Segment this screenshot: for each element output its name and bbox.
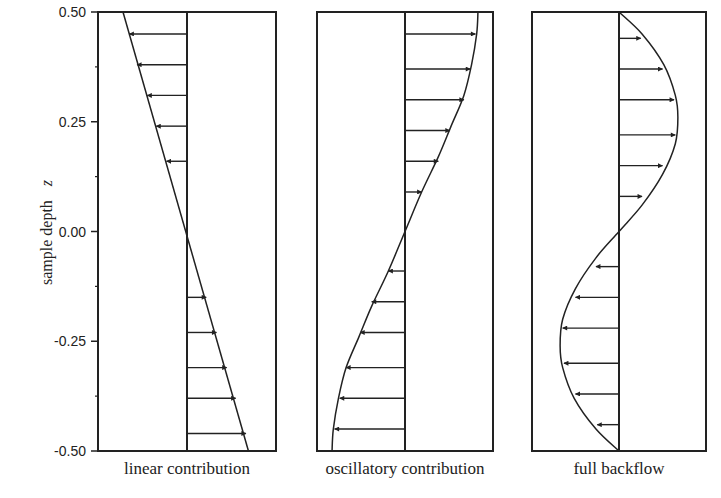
profile-curve	[123, 12, 248, 451]
panel-label-linear: linear contribution	[124, 459, 251, 478]
y-axis: 0.500.250.00-0.25-0.50	[54, 4, 98, 459]
y-tick-label: -0.50	[54, 443, 86, 459]
y-axis-label-var: z	[38, 179, 55, 187]
panel-linear-contribution	[98, 12, 276, 451]
figure: 0.500.250.00-0.25-0.50 sample depth z li…	[0, 0, 721, 498]
y-tick-label: 0.25	[59, 114, 86, 130]
y-axis-label-text: sample depth	[38, 200, 56, 285]
panel-oscillatory-contribution	[317, 12, 493, 451]
y-axis-label: sample depth z	[38, 179, 56, 285]
panel-label-oscillatory: oscillatory contribution	[325, 459, 485, 478]
panel-label-full-backflow: full backflow	[573, 459, 665, 478]
y-tick-label: 0.00	[59, 224, 86, 240]
y-tick-label: -0.25	[54, 333, 86, 349]
y-tick-label: 0.50	[59, 4, 86, 20]
panel-full-backflow	[532, 12, 706, 451]
